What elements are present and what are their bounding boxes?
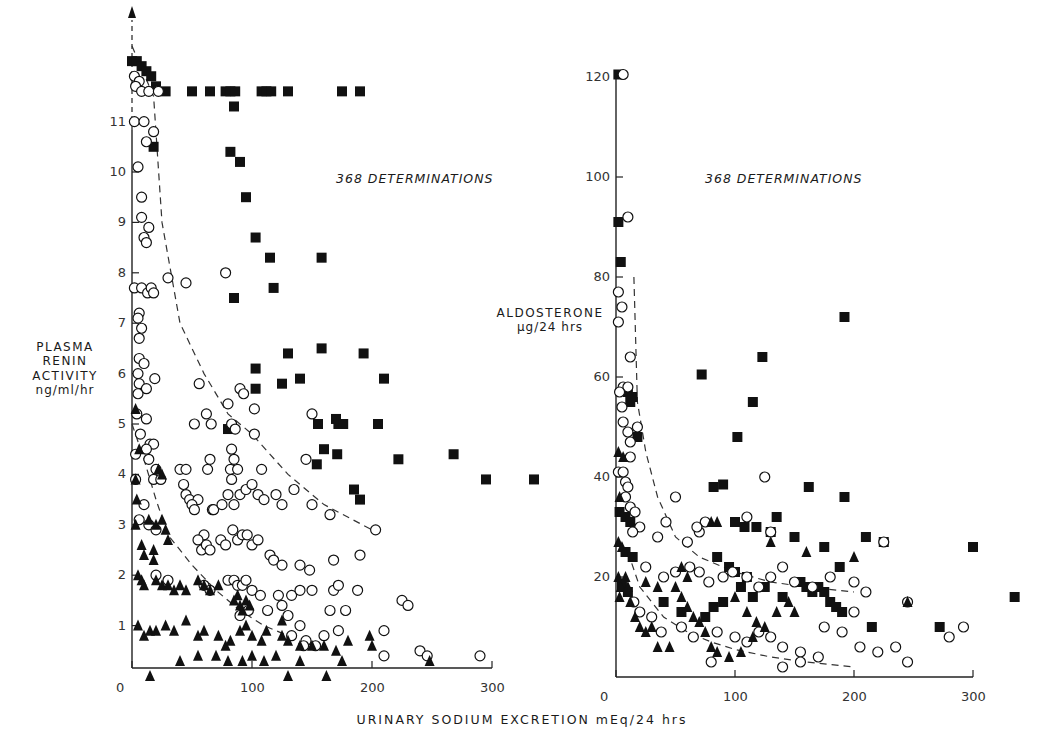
open-circle-marker	[694, 567, 704, 577]
open-circle-marker	[728, 567, 738, 577]
filled-square-marker	[332, 449, 342, 459]
series-open_circle	[129, 71, 485, 661]
filled-square-marker	[529, 474, 539, 484]
open-circle-marker	[153, 86, 163, 96]
filled-square-marker	[146, 71, 156, 81]
x-axis-label: URINARY SODIUM EXCRETION mEq/24 hrs	[0, 712, 1044, 727]
open-circle-marker	[137, 192, 147, 202]
open-circle-marker	[625, 352, 635, 362]
filled-square-marker	[393, 454, 403, 464]
open-circle-marker	[141, 414, 151, 424]
filled-square-marker	[751, 522, 761, 532]
tick-label: 2	[96, 567, 126, 582]
open-circle-marker	[641, 562, 651, 572]
filled-square-marker	[317, 343, 327, 353]
open-circle-marker	[873, 647, 883, 657]
filled-triangle-marker	[760, 621, 770, 632]
open-circle-marker	[150, 374, 160, 384]
open-circle-marker	[656, 627, 666, 637]
filled-square-marker	[319, 444, 329, 454]
open-circle-marker	[273, 590, 283, 600]
filled-triangle-marker	[653, 581, 663, 592]
open-circle-marker	[133, 162, 143, 172]
open-circle-marker	[137, 212, 147, 222]
filled-triangle-marker	[213, 630, 223, 641]
filled-square-marker	[709, 602, 719, 612]
filled-square-marker	[355, 86, 365, 96]
open-circle-marker	[849, 577, 859, 587]
open-circle-marker	[778, 562, 788, 572]
filled-triangle-marker	[175, 579, 185, 590]
open-circle-marker	[305, 565, 315, 575]
open-circle-marker	[163, 273, 173, 283]
open-circle-marker	[239, 389, 249, 399]
open-circle-marker	[289, 485, 299, 495]
tick-label: 40	[580, 469, 610, 484]
filled-triangle-marker	[213, 579, 223, 590]
filled-square-marker	[317, 253, 327, 263]
open-circle-marker	[181, 464, 191, 474]
open-circle-marker	[661, 517, 671, 527]
open-circle-marker	[760, 472, 770, 482]
filled-triangle-marker	[132, 494, 142, 505]
filled-triangle-marker	[257, 635, 267, 646]
filled-square-marker	[338, 419, 348, 429]
open-circle-marker	[133, 313, 143, 323]
open-circle-marker	[766, 632, 776, 642]
filled-triangle-marker	[157, 514, 167, 525]
y-label-line: ALDOSTERONE	[490, 306, 610, 320]
tick-label: 100	[580, 169, 610, 184]
open-circle-marker	[879, 537, 889, 547]
filled-square-marker	[772, 512, 782, 522]
open-circle-marker	[790, 577, 800, 587]
open-circle-marker	[144, 222, 154, 232]
open-circle-marker	[659, 572, 669, 582]
filled-square-marker	[225, 147, 235, 157]
filled-triangle-marker	[365, 630, 375, 641]
filled-square-marker	[355, 495, 365, 505]
filled-square-marker	[251, 384, 261, 394]
tick-label: 20	[580, 569, 610, 584]
open-circle-marker	[682, 537, 692, 547]
filled-triangle-marker	[641, 576, 651, 587]
filled-square-marker	[839, 492, 849, 502]
open-circle-marker	[217, 500, 227, 510]
filled-triangle-marker	[139, 549, 149, 560]
filled-square-marker	[625, 517, 635, 527]
open-circle-marker	[230, 424, 240, 434]
open-circle-marker	[706, 657, 716, 667]
tick-label: 9	[96, 214, 126, 229]
filled-triangle-marker	[682, 571, 692, 582]
open-circle-marker	[307, 585, 317, 595]
right-panel-annotation: 368 DETERMINATIONS	[705, 171, 862, 186]
open-circle-marker	[257, 464, 267, 474]
open-circle-marker	[242, 530, 252, 540]
open-circle-marker	[958, 622, 968, 632]
tick-label: 6	[96, 366, 126, 381]
filled-triangle-marker	[665, 641, 675, 652]
open-circle-marker	[766, 572, 776, 582]
open-circle-marker	[355, 550, 365, 560]
open-circle-marker	[263, 605, 273, 615]
open-circle-marker	[613, 317, 623, 327]
tick-label: 100	[240, 680, 265, 695]
filled-square-marker	[337, 86, 347, 96]
open-circle-marker	[307, 500, 317, 510]
open-circle-marker	[144, 454, 154, 464]
filled-triangle-marker	[766, 536, 776, 547]
open-circle-marker	[134, 333, 144, 343]
open-circle-marker	[692, 522, 702, 532]
open-circle-marker	[379, 626, 389, 636]
tick-label: 4	[96, 466, 126, 481]
filled-triangle-marker	[676, 591, 686, 602]
open-circle-marker	[766, 527, 776, 537]
filled-square-marker	[613, 217, 623, 227]
filled-square-marker	[837, 607, 847, 617]
open-circle-marker	[730, 632, 740, 642]
open-circle-marker	[712, 627, 722, 637]
open-circle-marker	[685, 562, 695, 572]
filled-triangle-marker	[211, 650, 221, 661]
open-circle-marker	[613, 287, 623, 297]
right-y-axis-label: ALDOSTERONE µg/24 hrs	[490, 306, 610, 335]
open-circle-marker	[849, 607, 859, 617]
